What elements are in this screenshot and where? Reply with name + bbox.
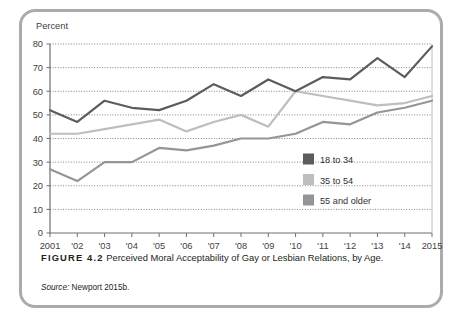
- y-axis-tick-label: 0: [38, 228, 43, 238]
- x-axis-tick-label: '06: [180, 241, 192, 251]
- y-axis-tick-label: 60: [33, 87, 43, 97]
- y-axis-tick-label: 40: [33, 134, 43, 144]
- x-axis-tick-label: '04: [126, 241, 138, 251]
- y-axis-tick-label: 80: [33, 39, 43, 49]
- x-axis-tick-label: '08: [235, 241, 247, 251]
- legend-swatch: [303, 154, 314, 165]
- legend-label: 18 to 34: [320, 155, 353, 165]
- legend-swatch: [303, 195, 314, 206]
- series-line-55-and-older: [50, 101, 432, 181]
- figure-number: FIGURE 4.2: [41, 252, 104, 263]
- x-axis-tick-label: '13: [371, 241, 383, 251]
- y-axis-tick-label: 20: [33, 181, 43, 191]
- line-chart: 010203040506070802001'02'03'04'05'06'07'…: [0, 0, 457, 323]
- legend-swatch: [303, 174, 314, 185]
- figure-source: Source: Newport 2015b.: [41, 283, 129, 292]
- x-axis-tick-label: '10: [290, 241, 302, 251]
- legend-label: 55 and older: [320, 196, 371, 206]
- y-axis-tick-label: 70: [33, 63, 43, 73]
- legend-label: 35 to 54: [320, 176, 353, 186]
- x-axis-tick-label: '03: [99, 241, 111, 251]
- figure-caption-text: Perceived Moral Acceptability of Gay or …: [106, 252, 383, 263]
- y-axis-tick-label: 30: [33, 158, 43, 168]
- y-axis-tick-label: 50: [33, 110, 43, 120]
- x-axis-tick-label: 2001: [40, 241, 61, 251]
- chart-region: Percent 010203040506070802001'02'03'04'0…: [0, 0, 457, 323]
- figure-caption: FIGURE 4.2 Perceived Moral Acceptability…: [41, 252, 427, 265]
- y-axis-tick-label: 10: [33, 205, 43, 215]
- x-axis-tick-label: '05: [153, 241, 165, 251]
- x-axis-tick-label: '12: [344, 241, 356, 251]
- x-axis-tick-label: '14: [399, 241, 411, 251]
- source-text: Newport 2015b.: [72, 283, 130, 292]
- x-axis-tick-label: 2015: [422, 241, 443, 251]
- x-axis-tick-label: '07: [208, 241, 220, 251]
- source-prefix: Source:: [41, 283, 69, 292]
- series-line-18-to-34: [50, 46, 432, 122]
- x-axis-tick-label: '02: [71, 241, 83, 251]
- x-axis-tick-label: '11: [317, 241, 328, 251]
- x-axis-tick-label: '09: [262, 241, 274, 251]
